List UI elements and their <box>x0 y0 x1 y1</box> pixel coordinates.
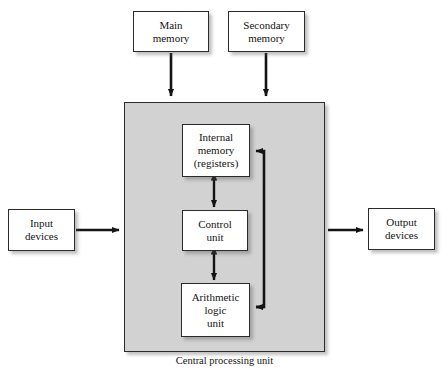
box-internal-memory-line3: (registers) <box>194 157 239 170</box>
box-alu-line1: Arithmetic <box>192 291 240 304</box>
diagram-canvas: Main memory Secondary memory Internal me… <box>0 0 448 372</box>
box-control-unit[interactable]: Control unit <box>182 210 248 251</box>
box-internal-memory[interactable]: Internal memory (registers) <box>182 124 250 177</box>
box-secondary-memory-line2: memory <box>248 32 285 45</box>
box-main-memory-line1: Main <box>159 19 182 32</box>
box-main-memory-line2: memory <box>153 32 190 45</box>
box-secondary-memory[interactable]: Secondary memory <box>228 11 305 52</box>
box-output-devices[interactable]: Output devices <box>368 208 435 250</box>
box-input-devices[interactable]: Input devices <box>8 209 75 251</box>
box-control-unit-line1: Control <box>198 218 232 231</box>
cpu-caption: Central processing unit <box>124 355 325 366</box>
box-alu-line3: unit <box>207 317 224 330</box>
box-internal-memory-line1: Internal <box>199 131 233 144</box>
box-control-unit-line2: unit <box>206 231 223 244</box>
box-output-devices-line1: Output <box>386 216 417 229</box>
box-internal-memory-line2: memory <box>198 144 235 157</box>
box-arithmetic-logic-unit[interactable]: Arithmetic logic unit <box>181 283 250 337</box>
box-input-devices-line2: devices <box>25 230 58 243</box>
box-input-devices-line1: Input <box>30 217 53 230</box>
box-secondary-memory-line1: Secondary <box>243 19 289 32</box>
box-output-devices-line2: devices <box>385 229 418 242</box>
box-alu-line2: logic <box>205 304 227 317</box>
box-main-memory[interactable]: Main memory <box>133 11 209 52</box>
